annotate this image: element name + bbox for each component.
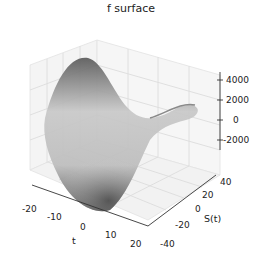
y-tick: 20	[202, 190, 214, 200]
plot-3d-axes: -20 -10 0 10 20 t -40 -20 0 20 40 S(t) -…	[0, 0, 262, 255]
x-tick: -10	[47, 212, 62, 222]
z-tick: 0	[233, 115, 239, 125]
x-axis: -20 -10 0 10 20 t	[22, 204, 142, 249]
x-axis-label: t	[72, 235, 76, 246]
y-tick: -20	[175, 220, 190, 230]
y-axis-label: S(t)	[204, 213, 221, 224]
z-tick: -2000	[223, 135, 249, 145]
z-axis: -2000 0 2000 4000	[217, 75, 249, 145]
z-tick: 2000	[226, 95, 249, 105]
figure: f surface	[0, 0, 262, 255]
y-tick: 40	[220, 177, 232, 187]
x-tick: -20	[22, 204, 37, 214]
x-tick: 0	[80, 222, 86, 232]
x-tick: 10	[105, 230, 117, 240]
y-tick: 0	[195, 204, 201, 214]
y-tick: -40	[160, 239, 175, 249]
z-tick: 4000	[226, 75, 249, 85]
x-tick: 20	[130, 239, 142, 249]
